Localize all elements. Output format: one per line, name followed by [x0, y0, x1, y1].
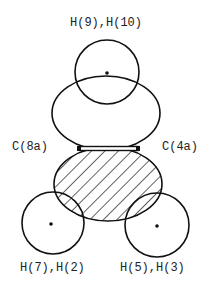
upper-lobe: [52, 76, 160, 150]
label-top-hydrogens: H(9),H(10): [70, 17, 142, 29]
diagram-canvas: H(9),H(10) C(8a) C(4a) H(7),H(2) H(5),H(…: [0, 0, 209, 288]
bottom-left-hydrogen-circle: [22, 192, 84, 254]
lower-lobe: [50, 140, 170, 230]
nucleus-dot-bottom-right: [155, 224, 159, 228]
c8a-c4a-bond: [77, 146, 140, 151]
label-bottom-right-hydrogens: H(5),H(3): [120, 262, 185, 274]
label-c4a: C(4a): [162, 141, 198, 153]
nucleus-dot-bottom-left: [49, 222, 53, 226]
nucleus-dot-top: [105, 71, 109, 75]
label-c8a: C(8a): [12, 141, 48, 153]
label-bottom-left-hydrogens: H(7),H(2): [20, 262, 85, 274]
